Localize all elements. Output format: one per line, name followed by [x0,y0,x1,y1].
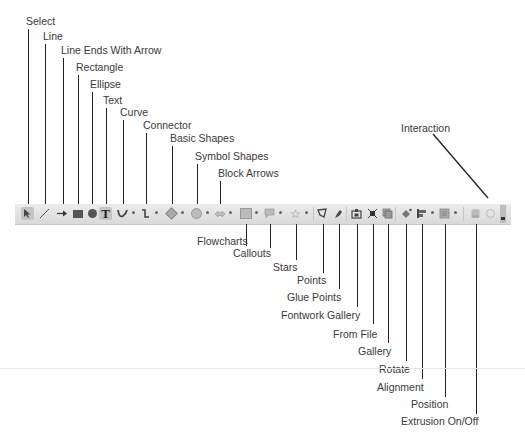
label-gallery: Gallery [358,345,391,357]
pointer-callouts [270,224,271,248]
label-flowcharts: Flowcharts [197,235,248,247]
toolbar-separator [346,207,347,221]
label-line: Line [43,30,63,42]
label-curve: Curve [120,106,148,118]
pointer-points [323,224,324,273]
label-from-file: From File [333,328,377,340]
line-arrow-icon[interactable] [56,207,69,220]
label-line-ends-with-arrow: Line Ends With Arrow [61,44,161,56]
pointer-glue-points [339,224,340,289]
flowchart-icon[interactable] [239,207,252,220]
label-basic-shapes: Basic Shapes [170,132,234,144]
label-block-arrows: Block Arrows [218,167,279,179]
diamond-icon[interactable] [165,207,178,220]
pointer-fontwork-gallery [357,224,358,307]
pointer-symbol-shapes [197,164,198,205]
pointer-curve [123,120,124,205]
label-interaction: Interaction [401,122,450,134]
star-icon[interactable]: ☆ [289,207,302,220]
curve-dropdown[interactable] [132,211,135,214]
interaction-icon[interactable] [484,207,497,220]
pointer-basic-shapes [172,146,173,205]
label-connector: Connector [143,119,191,131]
label-ellipse: Ellipse [90,78,121,90]
label-rotate: Rotate [379,363,410,375]
label-glue-points: Glue Points [287,291,341,303]
connector-icon[interactable] [139,207,152,220]
label-select: Select [26,15,55,27]
text-icon[interactable]: T [99,207,112,220]
curve-icon[interactable] [116,207,129,220]
label-rectangle: Rectangle [76,61,123,73]
pointer-connector [146,133,147,205]
toolbar-separator [395,207,396,221]
fontwork-icon[interactable] [350,207,363,220]
points-icon[interactable] [316,207,329,220]
pointer-rectangle [78,75,79,205]
image-from-file-icon[interactable] [366,207,379,220]
toolbar-overflow-handle[interactable] [500,205,506,223]
alignment-icon[interactable] [415,207,428,220]
label-callouts: Callouts [233,247,271,259]
alignment-dropdown[interactable] [431,211,434,214]
toolbar-separator [463,207,464,221]
drawing-toolbar: T ☆ [15,204,511,225]
label-symbol-shapes: Symbol Shapes [195,150,269,162]
position-icon[interactable] [438,207,451,220]
label-position: Position [411,398,448,410]
callout-icon[interactable] [263,207,276,220]
rotate-icon[interactable] [399,207,412,220]
pointer-stars [296,224,297,260]
select-arrow-icon[interactable] [21,207,34,220]
rectangle-icon[interactable] [71,207,84,220]
flowcharts-dropdown[interactable] [255,211,258,214]
ellipse-icon[interactable] [86,207,99,220]
stars-dropdown[interactable] [305,211,308,214]
pointer-position [445,224,446,397]
symbol-shapes-dropdown[interactable] [206,211,209,214]
extrusion-icon[interactable] [469,207,482,220]
label-text: Text [103,94,122,106]
divider-line [0,368,525,369]
pointer-text [106,108,107,205]
pointer-line-ends-with-arrow [63,58,64,205]
glue-points-icon[interactable] [332,207,345,220]
label-alignment: Alignment [377,381,424,393]
pointer-extrusion [476,224,477,414]
connector-dropdown[interactable] [155,211,158,214]
pointer-rotate [406,224,407,361]
pointer-block-arrows [220,181,221,205]
pointer-gallery [388,224,389,343]
smiley-icon[interactable] [190,207,203,220]
label-extrusion-on-off: Extrusion On/Off [401,415,478,427]
pointer-from-file [373,224,374,324]
position-dropdown[interactable] [454,211,457,214]
callouts-dropdown[interactable] [279,211,282,214]
line-icon[interactable] [38,207,51,220]
basic-shapes-dropdown[interactable] [181,211,184,214]
pointer-alignment [422,224,423,379]
block-arrow-icon[interactable] [213,207,226,220]
pointer-ellipse [92,92,93,205]
toolbar-separator [313,207,314,221]
label-fontwork-gallery: Fontwork Gallery [281,309,360,321]
label-points: Points [297,274,326,286]
block-arrows-dropdown[interactable] [229,211,232,214]
pointer-select [28,29,29,205]
label-stars: Stars [273,261,298,273]
pointer-line [45,44,46,205]
gallery-icon[interactable] [381,207,394,220]
